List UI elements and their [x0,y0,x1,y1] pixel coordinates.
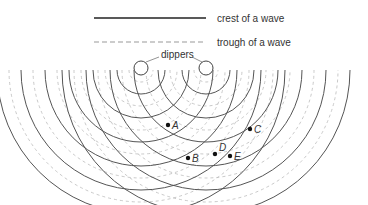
point-c-label: C [254,124,262,135]
dipper-left [134,61,148,75]
dippers: dippers [134,49,213,75]
trough-arc [33,70,249,178]
crest-arcs [0,70,350,205]
point-a-label: A [171,120,179,131]
point-b-label: B [192,153,199,164]
dipper-pointer-left [146,57,159,62]
point-d-label: D [219,142,226,153]
wave-interference-diagram: crest of a wave trough of a wave dippers… [0,0,368,205]
point-e-label: E [234,151,241,162]
dippers-label: dippers [161,49,194,60]
trough-arc [146,70,266,130]
trough-arc [74,70,338,202]
point-a-marker [166,123,170,127]
point-e-marker [228,154,232,158]
legend-trough-label: trough of a wave [217,37,291,48]
trough-arc [9,70,273,202]
trough-arc [81,70,201,130]
point-d-marker [213,152,217,156]
trough-arcs [9,70,338,202]
point-c-marker [248,127,252,131]
dipper-right [199,61,213,75]
point-b-marker [186,156,190,160]
trough-arc [98,70,314,178]
legend-crest-label: crest of a wave [217,13,285,24]
